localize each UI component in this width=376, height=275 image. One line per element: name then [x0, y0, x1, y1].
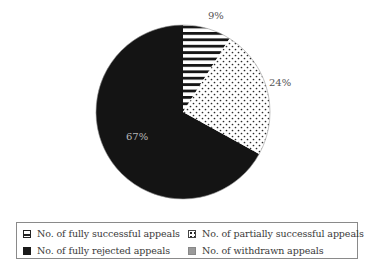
label-fully-rejected: 67% [126, 131, 148, 142]
black-swatch-icon [23, 247, 31, 255]
label-partially-successful: 24% [269, 77, 291, 88]
grey-swatch-icon [188, 247, 196, 255]
legend-item-withdrawn: No. of withdrawn appeals [188, 242, 363, 259]
legend-label: No. of fully rejected appeals [37, 245, 170, 256]
legend-label: No. of partially successful appeals [202, 228, 364, 239]
legend-label: No. of fully successful appeals [37, 228, 180, 239]
legend-item-fully-successful: No. of fully successful appeals [23, 225, 188, 242]
label-fully-successful: 9% [208, 10, 224, 21]
legend-item-fully-rejected: No. of fully rejected appeals [23, 242, 188, 259]
striped-swatch-icon [23, 230, 31, 238]
legend: No. of fully successful appeals No. of p… [16, 222, 358, 259]
legend-item-partially-successful: No. of partially successful appeals [188, 225, 363, 242]
dotted-swatch-icon [188, 230, 196, 238]
legend-label: No. of withdrawn appeals [202, 245, 323, 256]
